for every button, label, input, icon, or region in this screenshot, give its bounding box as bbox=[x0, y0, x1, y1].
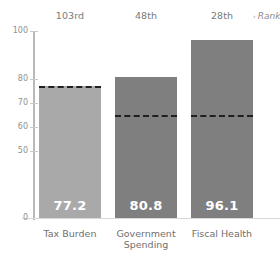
plot-area: 100807060500 77.280.896.1 bbox=[0, 26, 280, 222]
rank-label-2: 28th bbox=[182, 9, 262, 23]
rank-annotation: ‹Rank bbox=[253, 9, 280, 23]
bar-value-label-1: 80.8 bbox=[115, 198, 177, 213]
y-tick-label-80: 80 bbox=[0, 74, 28, 84]
category-label-2: Fiscal Health bbox=[172, 228, 272, 239]
bar-fiscal-health[interactable]: 96.1 bbox=[191, 40, 253, 218]
y-tick-mark-70 bbox=[30, 103, 38, 104]
y-tick-label-60: 60 bbox=[0, 122, 28, 132]
y-axis-line bbox=[33, 31, 35, 220]
reference-line-1 bbox=[115, 115, 177, 117]
y-tick-label-50: 50 bbox=[0, 146, 28, 156]
y-tick-mark-60 bbox=[30, 127, 38, 128]
x-axis-baseline bbox=[22, 218, 280, 219]
bar-value-label-0: 77.2 bbox=[39, 198, 101, 213]
y-tick-mark-80 bbox=[30, 79, 38, 80]
reference-line-0 bbox=[39, 86, 101, 88]
bar-government-spending[interactable]: 80.8 bbox=[115, 77, 177, 218]
bar-tax-burden[interactable]: 77.2 bbox=[39, 86, 101, 218]
rank-header-row: 103rd 48th 28th ‹Rank bbox=[0, 9, 280, 25]
rank-annotation-bullet-icon: ‹ bbox=[253, 13, 256, 21]
reference-line-2 bbox=[191, 115, 253, 117]
rank-annotation-label: Rank bbox=[258, 11, 280, 21]
y-tick-label-70: 70 bbox=[0, 98, 28, 108]
category-label-row: Tax BurdenGovernment SpendingFiscal Heal… bbox=[0, 228, 280, 258]
bar-value-label-2: 96.1 bbox=[191, 198, 253, 213]
bar-chart: 103rd 48th 28th ‹Rank 100807060500 77.28… bbox=[0, 0, 280, 260]
y-tick-label-100: 100 bbox=[0, 26, 28, 36]
y-tick-mark-100 bbox=[30, 31, 38, 32]
rank-label-1: 48th bbox=[106, 9, 186, 23]
y-tick-mark-50 bbox=[30, 151, 38, 152]
rank-label-0: 103rd bbox=[30, 9, 110, 23]
y-tick-label-0: 0 bbox=[0, 213, 28, 223]
